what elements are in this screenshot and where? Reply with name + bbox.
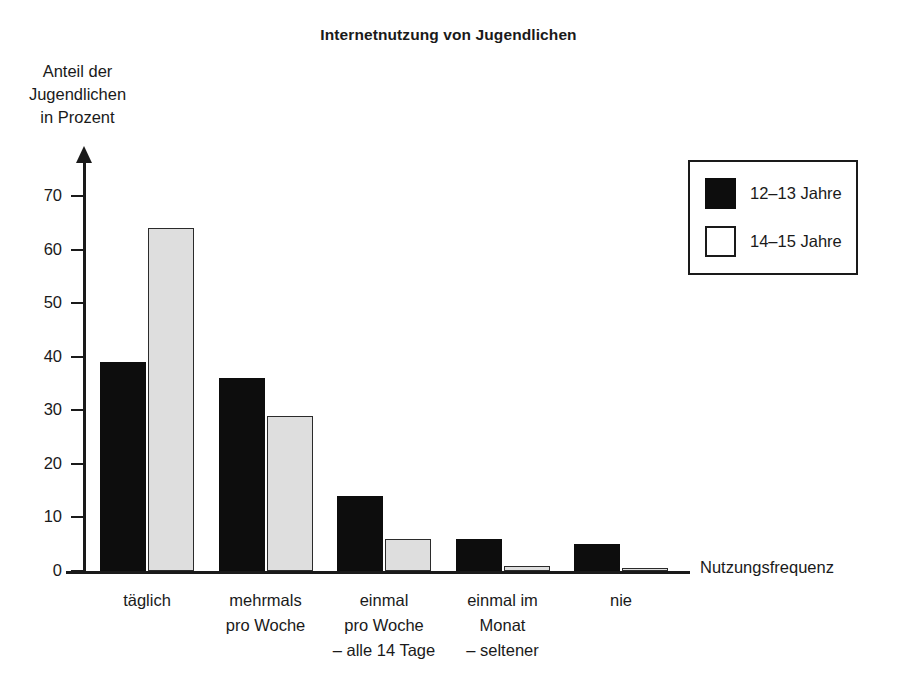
- y-axis-tick: [71, 195, 84, 197]
- chart-container: Internetnutzung von Jugendlichen Anteil …: [0, 0, 897, 689]
- y-axis-tick-label-wrap: 70: [26, 187, 62, 205]
- legend-entry-14-15: 14–15 Jahre: [705, 226, 842, 257]
- bar: [456, 539, 502, 571]
- y-axis-tick-label: 10: [26, 508, 62, 525]
- y-axis-tick: [71, 409, 84, 411]
- bar: [622, 568, 668, 572]
- y-axis-tick-label-wrap: 20: [26, 455, 62, 473]
- bar: [219, 378, 265, 571]
- legend-label: 12–13 Jahre: [750, 184, 842, 203]
- y-axis-tick: [71, 516, 84, 518]
- y-axis-tick: [71, 356, 84, 358]
- y-axis-arrow-icon: [76, 146, 92, 163]
- y-axis-tick-label: 0: [26, 562, 62, 579]
- y-axis-tick-label-wrap: 30: [26, 401, 62, 419]
- y-axis-tick: [71, 570, 84, 572]
- y-axis-tick-label-wrap: 0: [26, 562, 62, 580]
- y-axis-line: [83, 160, 86, 573]
- y-axis-tick-label-wrap: 50: [26, 294, 62, 312]
- legend-swatch-icon: [705, 226, 736, 257]
- x-axis-category-label: nie: [546, 588, 696, 613]
- y-axis-tick-label: 30: [26, 401, 62, 418]
- y-axis-tick: [71, 463, 84, 465]
- y-axis-tick-label: 20: [26, 455, 62, 472]
- legend-swatch-icon: [705, 178, 736, 209]
- y-axis-tick-label: 40: [26, 348, 62, 365]
- y-axis-tick-label-wrap: 10: [26, 508, 62, 526]
- bar: [574, 544, 620, 571]
- bar: [337, 496, 383, 571]
- bar: [148, 228, 194, 571]
- y-axis-tick-label: 50: [26, 294, 62, 311]
- y-axis-tick-label: 70: [26, 187, 62, 204]
- x-axis-line: [66, 571, 690, 574]
- bar: [504, 566, 550, 571]
- bar: [100, 362, 146, 571]
- bar: [385, 539, 431, 571]
- plot-area: 010203040506070 täglichmehrmals pro Woch…: [0, 0, 897, 689]
- y-axis-tick-label-wrap: 60: [26, 241, 62, 259]
- y-axis-tick: [71, 302, 84, 304]
- y-axis-tick: [71, 249, 84, 251]
- y-axis-tick-label: 60: [26, 241, 62, 258]
- legend-entry-12-13: 12–13 Jahre: [705, 178, 842, 209]
- legend-label: 14–15 Jahre: [750, 232, 842, 251]
- chart-legend: 12–13 Jahre 14–15 Jahre: [688, 160, 858, 275]
- y-axis-tick-label-wrap: 40: [26, 348, 62, 366]
- bar: [267, 416, 313, 571]
